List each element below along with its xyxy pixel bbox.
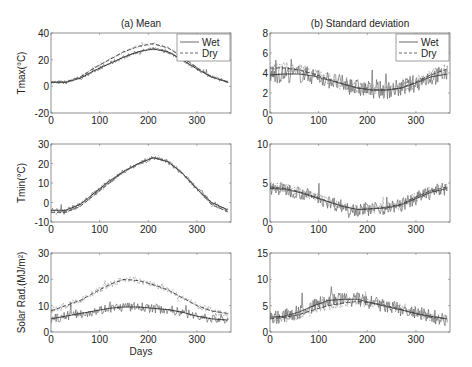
x-tick-label: 300	[189, 334, 206, 345]
y-axis-label: Solar Rad.(MJ/m²)	[16, 252, 27, 334]
panel-title: (b) Standard deviation	[311, 18, 409, 29]
x-tick-label: 0	[48, 334, 54, 345]
x-tick-label: 0	[267, 224, 273, 235]
x-axis-label: Days	[130, 346, 153, 357]
x-tick-label: 300	[408, 115, 425, 126]
x-tick-label: 300	[408, 334, 425, 345]
x-tick-label: 100	[310, 224, 327, 235]
y-tick-label: 0	[43, 198, 49, 209]
panel-sd-tmax: 010020030002468(b) Standard deviationWet…	[262, 18, 450, 126]
plot-area	[270, 253, 450, 332]
y-tick-label: 10	[257, 274, 269, 285]
y-tick-label: 0	[43, 81, 49, 92]
x-tick-label: 200	[140, 115, 157, 126]
y-tick-label: 5	[262, 178, 268, 189]
x-tick-label: 100	[310, 115, 327, 126]
x-tick-label: 0	[48, 115, 54, 126]
x-tick-label: 200	[359, 115, 376, 126]
y-tick-label: 30	[38, 248, 50, 259]
y-tick-label: 6	[262, 48, 268, 59]
plot-area	[51, 253, 231, 332]
y-tick-label: 0	[262, 108, 268, 119]
panel-tmax-mean: 0100200300-2002040(a) MeanTmax(°C)WetDry	[16, 18, 231, 126]
y-tick-label: 10	[38, 301, 50, 312]
y-tick-label: 10	[38, 178, 50, 189]
x-tick-label: 200	[359, 334, 376, 345]
y-tick-label: 4	[262, 68, 268, 79]
y-tick-label: 20	[38, 159, 50, 170]
x-tick-label: 0	[267, 115, 273, 126]
panel-sd-rad: 0100200300051015	[257, 248, 450, 345]
legend-wet: Wet	[421, 37, 439, 48]
panel-rad-mean: 01002003000102030Solar Rad.(MJ/m²)Days	[16, 248, 231, 357]
x-tick-label: 0	[267, 334, 273, 345]
x-tick-label: 200	[359, 224, 376, 235]
y-tick-label: 15	[257, 248, 269, 259]
y-axis-label: Tmax(°C)	[16, 52, 27, 95]
y-tick-label: -10	[35, 217, 50, 228]
x-tick-label: 300	[189, 115, 206, 126]
x-tick-label: 100	[91, 224, 108, 235]
y-tick-label: 8	[262, 28, 268, 39]
y-tick-label: -20	[35, 108, 50, 119]
legend-dry: Dry	[421, 48, 437, 59]
y-tick-label: 20	[38, 55, 50, 66]
x-tick-label: 0	[48, 224, 54, 235]
y-tick-label: 40	[38, 28, 50, 39]
panel-sd-tmin: 01002003000510	[257, 139, 450, 235]
y-tick-label: 0	[262, 217, 268, 228]
legend-wet: Wet	[202, 37, 220, 48]
panel-tmin-mean: 0100200300-100102030Tmin(°C)	[16, 139, 231, 235]
panel-title: (a) Mean	[121, 18, 161, 29]
x-tick-label: 300	[189, 224, 206, 235]
plot-area	[51, 144, 231, 222]
y-axis-label: Tmin(°C)	[16, 163, 27, 203]
y-tick-label: 10	[257, 139, 269, 150]
y-tick-label: 2	[262, 88, 268, 99]
x-tick-label: 100	[91, 334, 108, 345]
x-tick-label: 100	[310, 334, 327, 345]
x-tick-label: 200	[140, 334, 157, 345]
y-tick-label: 0	[43, 327, 49, 338]
y-tick-label: 5	[262, 301, 268, 312]
x-tick-label: 100	[91, 115, 108, 126]
legend: WetDry	[396, 34, 449, 61]
y-tick-label: 30	[38, 139, 50, 150]
y-tick-label: 0	[262, 327, 268, 338]
x-tick-label: 300	[408, 224, 425, 235]
y-tick-label: 20	[38, 274, 50, 285]
legend: WetDry	[177, 34, 230, 61]
legend-dry: Dry	[202, 48, 218, 59]
x-tick-label: 200	[140, 224, 157, 235]
figure: 0100200300-2002040(a) MeanTmax(°C)WetDry…	[0, 0, 472, 367]
